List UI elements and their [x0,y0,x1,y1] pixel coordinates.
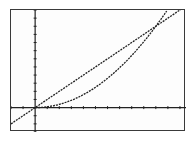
axes [11,10,186,132]
curves [11,10,186,124]
graph-plot [11,10,186,132]
graph-screen [10,9,185,131]
line-series [11,10,186,124]
parabola-series [35,11,167,108]
